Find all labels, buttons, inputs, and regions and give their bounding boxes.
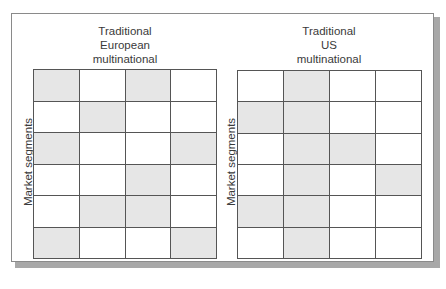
grid-cell xyxy=(126,102,172,134)
grid-cell-shaded xyxy=(126,165,172,197)
grid-cell-shaded xyxy=(34,133,80,165)
grid-cell xyxy=(34,102,80,134)
title-line: Traditional xyxy=(264,24,394,38)
grid-cell xyxy=(330,102,376,133)
grid-cell xyxy=(34,165,80,197)
grid-cell xyxy=(126,228,172,260)
grid-cell xyxy=(330,71,376,102)
grid-cell xyxy=(171,70,217,102)
title-line: US xyxy=(264,38,394,52)
grid-cell-shaded xyxy=(238,196,284,227)
title-line: multinational xyxy=(264,52,394,66)
grid-cell xyxy=(376,71,422,102)
grid-cell xyxy=(80,133,126,165)
title-line: Traditional xyxy=(60,24,190,38)
grid-cell xyxy=(238,134,284,165)
grid-cell-shaded xyxy=(284,102,330,133)
title-line: European xyxy=(60,38,190,52)
grid-cell xyxy=(376,196,422,227)
panel-title-european: Traditional European multinational xyxy=(60,24,190,66)
y-axis-label-us: Market segments xyxy=(225,112,237,212)
grid-cell xyxy=(238,165,284,196)
grid-cell xyxy=(80,228,126,260)
grid-cell xyxy=(330,165,376,196)
grid-cell xyxy=(126,133,172,165)
grid-cell-shaded xyxy=(34,228,80,260)
grid-cell xyxy=(376,102,422,133)
title-line: multinational xyxy=(60,52,190,66)
grid-cell xyxy=(330,228,376,259)
grid-cell xyxy=(171,165,217,197)
grid-cell-shaded xyxy=(238,102,284,133)
grid-cell-shaded xyxy=(126,196,172,228)
grid-cell-shaded xyxy=(34,70,80,102)
grid-cell-shaded xyxy=(284,134,330,165)
panel-title-us: Traditional US multinational xyxy=(264,24,394,66)
segment-grid-european xyxy=(33,69,217,259)
grid-cell-shaded xyxy=(171,133,217,165)
grid-cell xyxy=(238,71,284,102)
grid-cell-shaded xyxy=(284,71,330,102)
grid-cell xyxy=(80,165,126,197)
grid-cell-shaded xyxy=(80,196,126,228)
grid-cell-shaded xyxy=(330,134,376,165)
grid-cell xyxy=(376,228,422,259)
grid-cell xyxy=(34,196,80,228)
grid-cell-shaded xyxy=(126,70,172,102)
grid-cell-shaded xyxy=(284,165,330,196)
grid-cell xyxy=(80,70,126,102)
grid-cell-shaded xyxy=(376,165,422,196)
grid-cell xyxy=(330,196,376,227)
grid-cell-shaded xyxy=(80,102,126,134)
grid-cell-shaded xyxy=(284,228,330,259)
grid-cell xyxy=(376,134,422,165)
segment-grid-us xyxy=(237,70,422,259)
grid-cell-shaded xyxy=(171,228,217,260)
grid-cell xyxy=(171,102,217,134)
grid-cell-shaded xyxy=(284,196,330,227)
grid-cell xyxy=(171,196,217,228)
grid-cell xyxy=(238,228,284,259)
